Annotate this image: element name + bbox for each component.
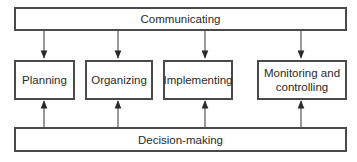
planning-box: Planning xyxy=(14,60,75,100)
monitoring-controlling-label: Monitoring and controlling xyxy=(264,66,340,94)
decision-making-label: Decision-making xyxy=(138,133,223,147)
decision-making-bar: Decision-making xyxy=(14,127,347,152)
monitoring-controlling-box: Monitoring and controlling xyxy=(257,60,347,100)
communicating-bar: Communicating xyxy=(14,7,347,31)
communicating-label: Communicating xyxy=(141,12,221,26)
implementing-label: Implementing xyxy=(163,73,232,87)
planning-label: Planning xyxy=(22,73,67,87)
organizing-label: Organizing xyxy=(91,73,147,87)
implementing-box: Implementing xyxy=(163,60,233,100)
organizing-box: Organizing xyxy=(85,60,153,100)
